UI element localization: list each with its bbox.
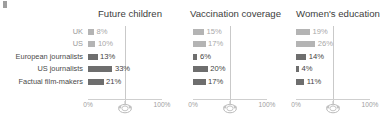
bar-value-label: 17%: [208, 76, 223, 88]
bar-row: 21%: [85, 76, 175, 88]
axis-tick-max: 100%: [154, 101, 171, 109]
bar: [296, 41, 315, 47]
axis-tick-min: 0%: [291, 101, 301, 109]
bar-value-label: 15%: [207, 26, 222, 38]
bar-row: 11%: [293, 76, 383, 88]
bar: [296, 66, 299, 72]
reference-marker-icon: [222, 100, 239, 113]
bar-value-label: 21%: [106, 76, 121, 88]
panel-title: Vaccination coverage: [190, 8, 280, 19]
bar-value-label: 6%: [200, 51, 211, 63]
bar-value-label: 14%: [309, 51, 324, 63]
bar-value-label: 11%: [307, 76, 322, 88]
panel-title: Women's education: [293, 8, 383, 19]
bar-row: 15%: [190, 26, 280, 38]
bar-row: 10%: [85, 38, 175, 50]
category-label: European journalists: [16, 51, 83, 63]
bar-row: 8%: [85, 26, 175, 38]
bar: [193, 54, 197, 60]
bar-row: 19%: [293, 26, 383, 38]
bar-value-label: 17%: [208, 38, 223, 50]
panel-plot: 8%10%13%33%21%: [85, 26, 175, 88]
bar: [88, 79, 104, 85]
panel-2: Women's education 19%26%14%4%11% 0%100%: [293, 0, 383, 121]
bar: [193, 29, 204, 35]
panel-plot: 15%17%6%20%17%: [190, 26, 280, 88]
bar-value-label: 10%: [98, 38, 113, 50]
bar: [193, 79, 206, 85]
axis-tick-min: 0%: [83, 101, 93, 109]
bar-value-label: 20%: [210, 63, 225, 75]
category-label: US: [73, 38, 83, 50]
reference-marker-icon: [117, 100, 134, 113]
bar-row: 4%: [293, 63, 383, 75]
axis-tick-min: 0%: [188, 101, 198, 109]
bar: [193, 66, 208, 72]
bar-value-label: 19%: [313, 26, 328, 38]
bar: [88, 41, 95, 47]
panel-1: Vaccination coverage 15%17%6%20%17% 0%10…: [190, 0, 280, 121]
category-label-column: UKUSEuropean journalistsUS journalistsFa…: [0, 26, 85, 88]
bar: [296, 79, 304, 85]
bar-row: 6%: [190, 51, 280, 63]
bar-row: 14%: [293, 51, 383, 63]
bar-value-label: 8%: [96, 26, 107, 38]
bar-row: 17%: [190, 38, 280, 50]
bar: [193, 41, 206, 47]
bar: [88, 66, 112, 72]
bar-value-label: 4%: [302, 63, 313, 75]
panel-0: Future children 8%10%13%33%21% 0%100%: [85, 0, 175, 121]
bar-row: 13%: [85, 51, 175, 63]
bar-value-label: 33%: [115, 63, 130, 75]
axis-tick-max: 100%: [259, 101, 276, 109]
reference-marker-icon: [325, 100, 342, 113]
bar-value-label: 13%: [100, 51, 115, 63]
bar: [296, 29, 310, 35]
bar-value-label: 26%: [318, 38, 333, 50]
category-label: UK: [73, 26, 83, 38]
bar-row: 33%: [85, 63, 175, 75]
category-label: Factual film-makers: [19, 76, 83, 88]
panel-plot: 19%26%14%4%11%: [293, 26, 383, 88]
bar: [88, 54, 98, 60]
bar-row: 17%: [190, 76, 280, 88]
corner-mark: [3, 1, 7, 8]
panel-title: Future children: [85, 8, 175, 19]
bar-row: 26%: [293, 38, 383, 50]
bar: [296, 54, 306, 60]
bar-row: 20%: [190, 63, 280, 75]
bar: [88, 29, 94, 35]
category-label: US journalists: [37, 63, 83, 75]
axis-tick-max: 100%: [362, 101, 379, 109]
chart-figure: UKUSEuropean journalistsUS journalistsFa…: [0, 0, 383, 121]
